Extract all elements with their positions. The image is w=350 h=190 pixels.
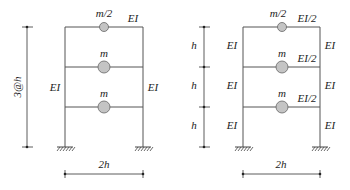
mass-floor-1 — [276, 101, 288, 113]
mass-label-roof: m/2 — [96, 7, 113, 19]
mass-label-floor-2: m — [100, 47, 108, 59]
width-label: 2h — [99, 158, 111, 170]
right-frame: h h h m/2 m m EI/2 EI/2 EI/2 EI EI EI EI… — [191, 7, 336, 178]
fixed-support-icon — [312, 147, 330, 151]
fixed-support-icon — [135, 147, 153, 151]
width-label: 2h — [276, 158, 288, 170]
beam-stiffness-label-roof: EI/2 — [297, 12, 317, 24]
right-column-stiffness-label-3: EI — [324, 39, 337, 51]
right-column-stiffness-label-2: EI — [324, 79, 337, 91]
mass-floor-1 — [98, 101, 110, 113]
mass-floor-2 — [98, 61, 110, 73]
fixed-support-icon — [57, 147, 75, 151]
mass-label-roof: m/2 — [270, 7, 287, 19]
height-dimension: 3@h — [11, 26, 33, 149]
height-label: 3@h — [11, 76, 23, 99]
frame-diagram: 3@h m/2 m m EI EI EI 2h — [0, 0, 350, 190]
story-height-label-1: h — [191, 119, 197, 131]
mass-roof — [278, 23, 287, 32]
story-height-dimension: h h h — [191, 26, 210, 149]
left-column-stiffness-label-1: EI — [226, 119, 239, 131]
left-frame: 3@h m/2 m m EI EI EI 2h — [11, 7, 160, 178]
left-column-stiffness-label: EI — [49, 81, 62, 93]
beam-stiffness-label: EI — [127, 12, 140, 24]
right-column-stiffness-label: EI — [147, 81, 160, 93]
width-dimension: 2h — [64, 158, 145, 178]
left-column-stiffness-label-3: EI — [226, 39, 239, 51]
mass-label-floor-1: m — [100, 87, 108, 99]
mass-roof — [100, 23, 109, 32]
mass-floor-2 — [276, 61, 288, 73]
fixed-support-icon — [235, 147, 253, 151]
mass-label-floor-2: m — [278, 47, 286, 59]
story-height-label-3: h — [191, 39, 197, 51]
story-height-label-2: h — [191, 79, 197, 91]
left-column-stiffness-label-2: EI — [226, 79, 239, 91]
right-column-stiffness-label-1: EI — [324, 119, 337, 131]
mass-label-floor-1: m — [278, 87, 286, 99]
beam-stiffness-label-floor-1: EI/2 — [297, 92, 317, 104]
width-dimension: 2h — [242, 158, 322, 178]
beam-stiffness-label-floor-2: EI/2 — [297, 52, 317, 64]
